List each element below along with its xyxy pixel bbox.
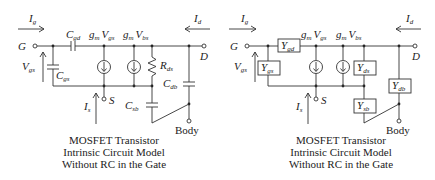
source-label: S xyxy=(109,94,115,106)
cdb-label: Cdb xyxy=(163,77,178,91)
caption-line-3: Without RC in the Gate xyxy=(62,158,166,170)
caption-line-3: Without RC in the Gate xyxy=(289,158,393,170)
caption-line-2: Intrinsic Circuit Model xyxy=(290,146,391,158)
is-label: Is xyxy=(83,100,91,114)
drain-label: D xyxy=(411,50,420,62)
caption-line-1: MOSFET Transistor xyxy=(296,134,386,146)
source-terminal xyxy=(102,97,106,101)
body-label: Body xyxy=(175,124,199,136)
id-label: Id xyxy=(193,12,202,26)
drain-label: D xyxy=(199,50,208,62)
circuit-diagrams: Ig Id G Cgd D Cgs Vgs xyxy=(0,0,435,180)
is-label: Is xyxy=(295,100,303,114)
source-terminal xyxy=(314,97,318,101)
gm-vbs-label: gmVbs xyxy=(336,28,362,42)
csb-label: Csb xyxy=(125,99,139,113)
cgs-label: Cgs xyxy=(56,69,70,83)
gate-label: G xyxy=(230,40,238,52)
body-terminal xyxy=(397,119,401,123)
body-label: Body xyxy=(386,124,410,136)
drain-terminal xyxy=(413,44,417,48)
gm-vgs-label: gmVgs xyxy=(89,28,115,42)
gate-terminal xyxy=(245,44,249,48)
id-label: Id xyxy=(405,12,414,26)
resistor-icon xyxy=(148,57,156,76)
drain-terminal xyxy=(202,44,206,48)
cgd-label: Cgd xyxy=(66,28,81,42)
gate-terminal xyxy=(33,44,37,48)
vgs-label: Vgs xyxy=(234,60,247,74)
body-terminal xyxy=(187,119,191,123)
gm-vbs-label: gmVbs xyxy=(123,28,149,42)
source-label: S xyxy=(321,94,327,106)
left-circuit: Ig Id G Cgd D Cgs Vgs xyxy=(18,12,210,170)
caption-line-1: MOSFET Transistor xyxy=(69,134,159,146)
caption-line-2: Intrinsic Circuit Model xyxy=(63,146,164,158)
right-circuit: Ig Id G D Ygd Ygs Vgs gmVgs xyxy=(229,12,421,170)
vgs-label: Vgs xyxy=(22,60,35,74)
rds-label: Rds xyxy=(159,59,173,73)
gate-label: G xyxy=(18,40,26,52)
ig-label: Ig xyxy=(28,12,37,26)
gm-vgs-label: gmVgs xyxy=(301,28,327,42)
ig-label: Ig xyxy=(240,12,249,26)
